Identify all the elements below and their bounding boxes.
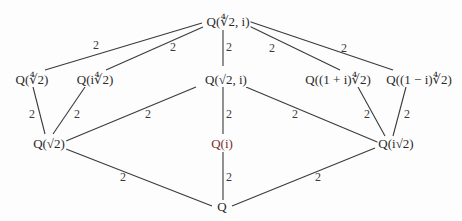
edge-qsqrt2i-qisqrt2 <box>246 87 382 144</box>
edge-label: 2 <box>341 42 347 54</box>
edge-qsqrt2i-qsqrt2 <box>66 87 196 141</box>
node-q-4rt2-i: Q(∜2, i) <box>206 15 251 29</box>
node-q-1plusi-4rt2: Q((1 + i)∜2) <box>304 73 371 87</box>
edge-label: 2 <box>364 108 370 120</box>
edge-label: 2 <box>226 171 232 183</box>
node-q-4rt2: Q(∜2) <box>15 73 50 87</box>
edge-label: 2 <box>226 108 232 120</box>
edge-label: 2 <box>145 108 151 120</box>
edge-label: 2 <box>120 171 126 183</box>
node-q: Q <box>216 200 227 214</box>
edge-label: 2 <box>315 171 321 183</box>
edge-top-qi4rt2 <box>106 27 203 70</box>
edge-qisqrt2-bottom <box>232 148 375 206</box>
edge-label: 2 <box>93 39 99 51</box>
node-q-sqrt2-i: Q(√2, i) <box>204 73 248 87</box>
edge-qsqrt2-bottom <box>66 149 212 206</box>
edge-label: 2 <box>292 108 298 120</box>
edge-label: 2 <box>269 42 275 54</box>
node-q-i: Q(i) <box>210 137 234 151</box>
edge-label: 2 <box>404 108 410 120</box>
field-lattice-diagram: Q(∜2, i) Q(∜2) Q(i∜2) Q(√2, i) Q((1 + i)… <box>0 0 462 221</box>
edge-label: 2 <box>170 41 176 53</box>
edge-label: 2 <box>74 108 80 120</box>
node-q-i-4rt2: Q(i∜2) <box>76 73 114 87</box>
edge-top-q4rt2 <box>45 23 202 70</box>
edge-label: 2 <box>226 41 232 53</box>
node-q-sqrt2: Q(√2) <box>32 137 66 151</box>
node-q-1minusi-4rt2: Q((1 − i)∜2) <box>385 73 452 87</box>
edge-qi4rt2-qsqrt2 <box>53 87 85 134</box>
node-q-i-sqrt2: Q(i√2) <box>377 137 414 151</box>
edge-q1pi-qisqrt2 <box>358 87 385 136</box>
edge-label: 2 <box>29 108 35 120</box>
